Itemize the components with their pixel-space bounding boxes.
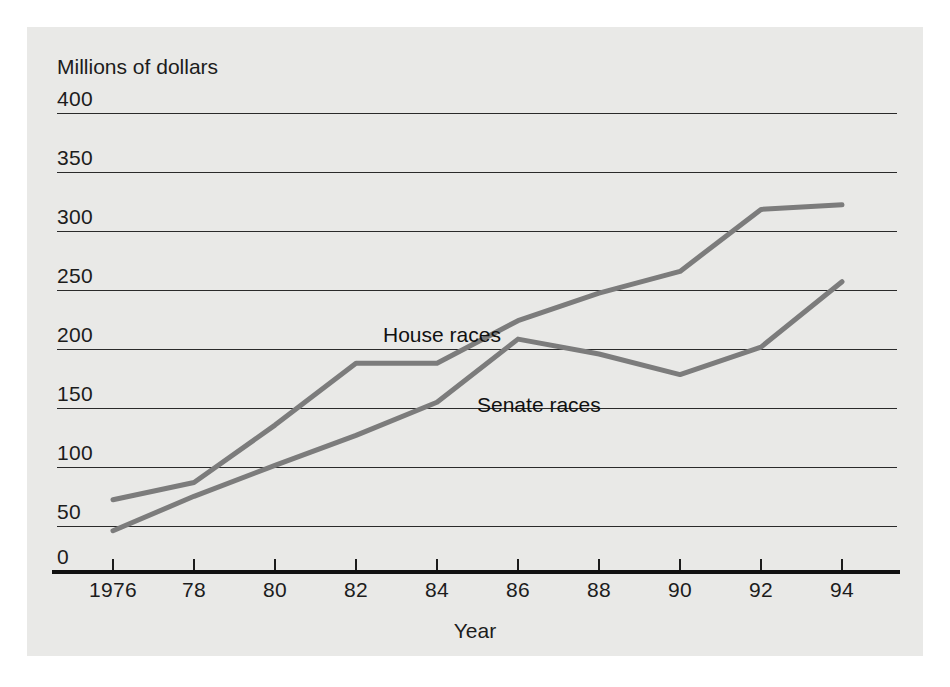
x-tick-1994 <box>841 559 843 570</box>
x-tick-1986 <box>517 559 519 570</box>
x-tick-1982 <box>355 559 357 570</box>
x-tick-1976 <box>112 559 114 570</box>
x-tick-label-94: 94 <box>830 578 854 602</box>
x-tick-label-82: 82 <box>344 578 368 602</box>
chart-panel: Millions of dollars 400 350 300 250 200 … <box>27 27 923 656</box>
x-tick-1992 <box>760 559 762 570</box>
x-tick-1980 <box>274 559 276 570</box>
plot-area: Millions of dollars 400 350 300 250 200 … <box>27 27 923 656</box>
x-tick-label-88: 88 <box>587 578 611 602</box>
x-axis-title: Year <box>27 619 923 643</box>
x-tick-1988 <box>598 559 600 570</box>
x-tick-label-1976: 1976 <box>89 578 137 602</box>
x-tick-label-90: 90 <box>668 578 692 602</box>
series-label-house-races: House races <box>383 323 501 347</box>
x-tick-label-92: 92 <box>749 578 773 602</box>
x-tick-label-80: 80 <box>263 578 287 602</box>
figure-container: Millions of dollars 400 350 300 250 200 … <box>0 0 950 687</box>
x-tick-1990 <box>679 559 681 570</box>
series-label-senate-races: Senate races <box>477 393 601 417</box>
x-tick-1978 <box>193 559 195 570</box>
x-tick-1984 <box>436 559 438 570</box>
x-tick-label-78: 78 <box>182 578 206 602</box>
x-tick-label-84: 84 <box>425 578 449 602</box>
x-axis-line <box>52 570 900 574</box>
series-line-house-races <box>113 205 842 500</box>
x-tick-label-86: 86 <box>506 578 530 602</box>
